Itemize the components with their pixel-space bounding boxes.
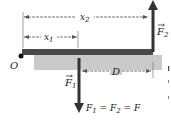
force-f2-arrowhead-icon — [148, 0, 158, 10]
svg-text:F2: F2 — [156, 26, 169, 39]
bar — [22, 49, 153, 55]
pivot-point — [19, 54, 24, 59]
force-f1-label: F1 — [64, 75, 76, 90]
pivot-label: O — [10, 60, 18, 71]
edge-mark — [168, 66, 169, 71]
edge-mark — [168, 96, 169, 99]
bar-shadow — [34, 55, 162, 70]
force-equation: F1 = F2 = F — [85, 103, 141, 115]
svg-text:F1: F1 — [64, 77, 76, 90]
couple-diagram: O x2 x1 D F2 F1 F1 = F2 = F — [0, 0, 171, 126]
edge-mark — [168, 80, 169, 83]
force-f1-arrowhead-icon — [74, 103, 84, 113]
force-f2-label: F2 — [156, 24, 169, 39]
d-label: D — [111, 66, 120, 77]
